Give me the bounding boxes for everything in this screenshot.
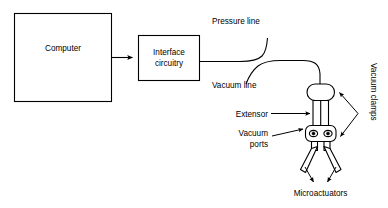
diagram-canvas: Computer Interface circuitry (0, 0, 388, 208)
interface-circuitry-label-line2: circuitry (155, 59, 184, 68)
computer-box (15, 14, 112, 102)
microactuators-leader-right (328, 167, 337, 182)
microactuators-label: Microactuators (294, 189, 348, 198)
vacuum-port-right-dot (327, 132, 330, 135)
microactuators-leader-left (305, 167, 314, 182)
annotation-vacuum-clamps: Vacuum clamps (340, 63, 378, 137)
annotation-microactuators: Microactuators (294, 167, 348, 198)
vacuum-clamps-leader-lower (341, 114, 359, 137)
vacuum-line-label: Vacuum line (212, 81, 257, 90)
microgripper-assembly (301, 84, 342, 173)
vacuum-port-left-dot (312, 132, 315, 135)
pressure-line-label: Pressure line (212, 17, 260, 26)
pressure-line-tube (200, 38, 268, 62)
block-interface-circuitry: Interface circuitry (139, 36, 200, 81)
annotation-extensor: Extensor (236, 110, 310, 119)
vacuum-clamps-label: Vacuum clamps (369, 63, 378, 121)
microactuator-leg-right (324, 147, 341, 173)
system-diagram: Computer Interface circuitry (0, 0, 388, 208)
vacuum-ports-label-line2: ports (250, 140, 268, 149)
block-computer: Computer (15, 14, 112, 102)
interface-circuitry-box (139, 36, 200, 81)
upper-vacuum-clamp (307, 84, 335, 101)
annotation-vacuum-ports: Vacuum ports (239, 129, 303, 149)
vacuum-line-tube (246, 61, 320, 85)
microactuator-leg-left (301, 147, 318, 173)
computer-label: Computer (45, 44, 81, 53)
pneumatic-tubing (200, 38, 321, 84)
annotation-vacuum-line: Vacuum line (212, 81, 257, 90)
vacuum-clamps-leader-upper (340, 93, 359, 114)
extensor-label: Extensor (236, 110, 269, 119)
annotation-pressure-line: Pressure line (212, 17, 260, 26)
vacuum-ports-leader (272, 129, 303, 136)
interface-circuitry-label-line1: Interface (153, 48, 185, 57)
vacuum-ports-label-line1: Vacuum (239, 129, 269, 138)
